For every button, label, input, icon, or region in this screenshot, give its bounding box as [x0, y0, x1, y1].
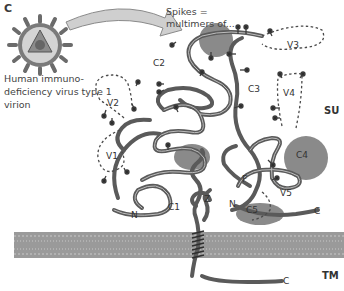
region-c1: C1 — [168, 202, 180, 212]
region-n-tm: N — [229, 199, 236, 209]
region-v2: V2 — [107, 98, 119, 108]
subunit-su-label: SU — [324, 105, 339, 116]
region-c5: C5 — [246, 205, 258, 215]
region-c3: C3 — [248, 84, 260, 94]
callout-arrow-icon — [66, 9, 182, 36]
virion-icon — [9, 16, 71, 74]
region-v5: V5 — [280, 188, 292, 198]
region-c-su: C — [314, 206, 320, 216]
region-c-tm: C — [283, 276, 289, 286]
region-c2: C2 — [153, 58, 165, 68]
panel-label: C — [4, 2, 12, 15]
callout-text: Spikes = multimers of... — [166, 6, 246, 30]
region-c4: C4 — [296, 150, 308, 160]
virion-caption: Human immuno-deficiency virus type 1 vir… — [4, 72, 114, 111]
region-v4: V4 — [283, 88, 295, 98]
membrane — [14, 232, 344, 258]
region-n-su: N — [131, 210, 138, 220]
region-v1: V1 — [106, 151, 118, 161]
subunit-tm-label: TM — [322, 270, 339, 281]
region-v3: V3 — [287, 40, 299, 50]
region-z: Z — [204, 194, 210, 204]
region-f: F — [242, 174, 247, 184]
